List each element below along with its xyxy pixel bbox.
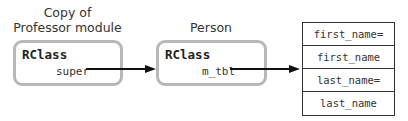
- caption-line-1: Person: [156, 20, 266, 35]
- caption-line-1: Copy of: [10, 5, 125, 20]
- rclass-label: RClass: [22, 47, 67, 62]
- m-tbl-arrow: [230, 68, 290, 70]
- super-arrowhead: [145, 65, 156, 73]
- professor-copy-rclass-box: RClass super: [13, 40, 123, 86]
- person-rclass-box: RClass m_tbl: [156, 40, 267, 86]
- method-row: first_name: [303, 46, 394, 69]
- m-tbl-arrowhead: [289, 65, 300, 73]
- professor-copy-caption: Copy of Professor module: [10, 5, 125, 35]
- rclass-label: RClass: [165, 47, 210, 62]
- method-row: last_name: [303, 92, 394, 115]
- m-tbl-field: m_tbl: [202, 65, 235, 78]
- super-arrow: [86, 68, 146, 70]
- method-table: first_name= first_name last_name= last_n…: [302, 22, 395, 116]
- method-row: first_name=: [303, 23, 394, 46]
- super-field: super: [56, 65, 89, 78]
- person-caption: Person: [156, 20, 266, 35]
- method-row: last_name=: [303, 69, 394, 92]
- caption-line-2: Professor module: [10, 20, 125, 35]
